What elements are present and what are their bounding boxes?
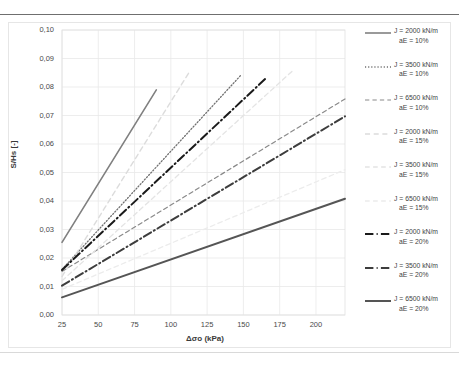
legend-label-line2: aE = 10% — [394, 103, 438, 113]
legend-item-8[interactable]: J = 6500 kN/maE = 20% — [364, 294, 456, 328]
y-tick-label: 0,07 — [26, 111, 54, 120]
legend-label: J = 3500 kN/maE = 20% — [392, 261, 438, 280]
legend-label-line2: aE = 15% — [394, 170, 438, 180]
legend-swatch-icon — [364, 195, 392, 207]
legend-item-7[interactable]: J = 3500 kN/maE = 20% — [364, 261, 456, 295]
y-tick-label: 0,01 — [26, 282, 54, 291]
legend-swatch-icon — [364, 128, 392, 140]
legend-label: J = 3500 kN/maE = 15% — [392, 160, 438, 179]
legend-swatch-icon — [364, 262, 392, 274]
x-tick-label: 25 — [49, 320, 75, 329]
y-tick-label: 0,02 — [26, 253, 54, 262]
legend-label-line2: aE = 20% — [394, 270, 438, 280]
legend-label-line2: aE = 20% — [394, 304, 438, 314]
legend-item-3[interactable]: J = 2000 kN/maE = 15% — [364, 127, 456, 161]
legend-label: J = 2000 kN/maE = 10% — [392, 26, 438, 45]
legend-swatch-icon — [364, 94, 392, 106]
legend-label-line1: J = 3500 kN/m — [394, 262, 438, 269]
legend-label-line1: J = 6500 kN/m — [394, 295, 438, 302]
legend-item-2[interactable]: J = 6500 kN/maE = 10% — [364, 93, 456, 127]
legend-label: J = 2000 kN/maE = 20% — [392, 227, 438, 246]
legend-swatch-icon — [364, 228, 392, 240]
y-tick-label: 0,10 — [26, 25, 54, 34]
y-tick-label: 0,00 — [26, 310, 54, 319]
legend-label-line1: J = 6500 kN/m — [394, 94, 438, 101]
legend-label: J = 6500 kN/maE = 10% — [392, 93, 438, 112]
legend-label-line2: aE = 15% — [394, 203, 438, 213]
legend-label-line1: J = 2000 kN/m — [394, 228, 438, 235]
legend-label: J = 6500 kN/maE = 15% — [392, 194, 438, 213]
y-tick-label: 0,04 — [26, 196, 54, 205]
series-line-4 — [62, 69, 294, 280]
legend-label-line1: J = 2000 kN/m — [394, 128, 438, 135]
legend-label: J = 6500 kN/maE = 20% — [392, 294, 438, 313]
x-tick-label: 125 — [194, 320, 220, 329]
series-line-2 — [62, 99, 345, 271]
legend-label-line2: aE = 15% — [394, 136, 438, 146]
legend-swatch-icon — [364, 61, 392, 73]
x-tick-label: 200 — [303, 320, 329, 329]
chart-legend: J = 2000 kN/maE = 10%J = 3500 kN/maE = 1… — [364, 26, 456, 328]
legend-label-line1: J = 3500 kN/m — [394, 61, 438, 68]
legend-label: J = 2000 kN/maE = 15% — [392, 127, 438, 146]
series-line-8 — [62, 199, 345, 298]
series-line-0 — [62, 90, 156, 242]
legend-item-6[interactable]: J = 2000 kN/maE = 20% — [364, 227, 456, 261]
x-tick-label: 150 — [230, 320, 256, 329]
legend-item-5[interactable]: J = 6500 kN/maE = 15% — [364, 194, 456, 228]
y-tick-label: 0,09 — [26, 54, 54, 63]
x-tick-label: 175 — [267, 320, 293, 329]
legend-label-line1: J = 6500 kN/m — [394, 195, 438, 202]
chart-figure: 0,000,010,020,030,040,050,060,070,080,09… — [0, 0, 459, 368]
legend-item-0[interactable]: J = 2000 kN/maE = 10% — [364, 26, 456, 60]
x-tick-label: 100 — [158, 320, 184, 329]
y-axis-title: S/Hs [-] — [9, 120, 18, 190]
legend-swatch-icon — [364, 161, 392, 173]
legend-swatch-icon — [364, 295, 392, 307]
legend-label-line2: aE = 20% — [394, 237, 438, 247]
series-line-6 — [62, 78, 267, 270]
legend-label-line2: aE = 10% — [394, 69, 438, 79]
legend-item-1[interactable]: J = 3500 kN/maE = 10% — [364, 60, 456, 94]
y-tick-label: 0,08 — [26, 82, 54, 91]
legend-label: J = 3500 kN/maE = 10% — [392, 60, 438, 79]
legend-label-line1: J = 3500 kN/m — [394, 161, 438, 168]
series-lines — [62, 69, 345, 297]
x-axis-title: Δσo (kPa) — [150, 334, 260, 343]
y-tick-label: 0,06 — [26, 139, 54, 148]
legend-label-line1: J = 2000 kN/m — [394, 27, 438, 34]
y-tick-label: 0,05 — [26, 168, 54, 177]
legend-label-line2: aE = 10% — [394, 36, 438, 46]
legend-item-4[interactable]: J = 3500 kN/maE = 15% — [364, 160, 456, 194]
legend-swatch-icon — [364, 27, 392, 39]
x-tick-label: 75 — [122, 320, 148, 329]
y-tick-label: 0,03 — [26, 225, 54, 234]
x-tick-label: 50 — [85, 320, 111, 329]
